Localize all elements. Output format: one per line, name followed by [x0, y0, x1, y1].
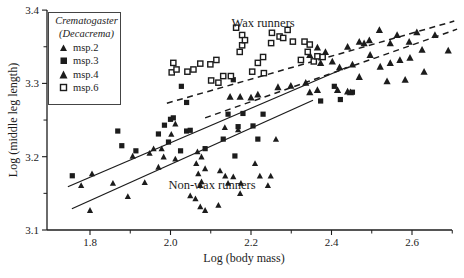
- data-point-msp.4: [366, 36, 373, 43]
- data-point-msp.2: [215, 202, 221, 208]
- data-point-msp.2: [159, 146, 165, 152]
- data-point-msp.4: [406, 38, 413, 45]
- data-point-msp.4: [226, 93, 233, 100]
- data-point-msp.6: [302, 39, 307, 44]
- triangle-filled-icon: [59, 70, 68, 79]
- annotation-wax-runners: Wax runners: [231, 16, 294, 31]
- data-point-msp.4: [420, 68, 427, 75]
- data-point-msp.2: [268, 173, 274, 179]
- data-point-msp.6: [240, 32, 245, 37]
- data-point-msp.3: [70, 173, 75, 178]
- data-point-msp.2: [265, 182, 271, 188]
- data-point-msp.2: [217, 168, 223, 174]
- data-point-msp.6: [298, 57, 303, 62]
- x-axis-tick-label: 2.0: [164, 236, 178, 248]
- data-point-msp.3: [178, 148, 183, 153]
- data-point-msp.3: [133, 148, 138, 153]
- data-point-msp.3: [166, 139, 171, 144]
- data-point-msp.6: [174, 67, 179, 72]
- data-point-msp.2: [130, 153, 136, 159]
- data-point-msp.4: [274, 83, 281, 90]
- data-point-msp.6: [290, 39, 295, 44]
- data-point-msp.2: [110, 180, 116, 186]
- data-point-msp.4: [431, 31, 438, 38]
- square-open-icon: [59, 83, 68, 92]
- data-point-msp.6: [240, 43, 245, 48]
- data-point-msp.3: [232, 153, 237, 158]
- data-point-msp.2: [172, 156, 178, 162]
- data-point-msp.3: [203, 146, 208, 151]
- data-point-msp.6: [307, 42, 312, 47]
- data-point-msp.6: [320, 54, 325, 59]
- data-point-msp.2: [195, 170, 201, 176]
- data-point-msp.6: [185, 69, 190, 74]
- data-point-msp.4: [387, 59, 394, 66]
- data-point-msp.4: [445, 47, 452, 54]
- data-point-msp.3: [332, 84, 337, 89]
- legend-item-label: msp.6: [73, 82, 98, 93]
- y-axis-tick-label: 3.1: [25, 224, 39, 236]
- legend: Crematogaster (Decacrema) msp.2 msp.3 ms…: [48, 12, 121, 105]
- data-point-msp.2: [222, 124, 228, 130]
- data-point-msp.3: [255, 137, 260, 142]
- data-point-msp.6: [311, 59, 316, 64]
- data-point-msp.4: [306, 88, 313, 95]
- data-point-msp.3: [119, 143, 124, 148]
- data-point-msp.4: [314, 44, 321, 51]
- data-point-msp.4: [376, 26, 383, 33]
- data-point-msp.6: [255, 60, 260, 65]
- data-point-msp.4: [387, 39, 394, 46]
- data-point-msp.3: [221, 137, 226, 142]
- data-point-msp.2: [202, 207, 208, 213]
- data-point-msp.4: [356, 73, 363, 80]
- legend-item-label: msp.2: [73, 42, 98, 53]
- data-point-msp.2: [187, 192, 193, 198]
- data-point-msp.4: [247, 94, 254, 101]
- legend-item-msp2: msp.2: [55, 41, 118, 54]
- data-point-msp.2: [257, 173, 263, 179]
- data-point-msp.3: [179, 84, 184, 89]
- data-point-msp.6: [209, 78, 214, 83]
- data-point-msp.3: [225, 112, 230, 117]
- data-point-msp.2: [192, 195, 198, 201]
- legend-item-label: msp.3: [73, 55, 98, 66]
- y-axis-tick-label: 3.2: [25, 151, 39, 163]
- data-point-msp.4: [314, 86, 321, 93]
- data-point-msp.3: [156, 131, 161, 136]
- data-point-msp.4: [367, 51, 374, 58]
- data-point-msp.3: [184, 100, 189, 105]
- data-point-msp.4: [418, 46, 425, 53]
- data-point-msp.6: [269, 40, 274, 45]
- data-point-msp.2: [172, 121, 178, 127]
- data-point-msp.2: [198, 154, 204, 160]
- data-point-msp.4: [396, 56, 403, 63]
- annotation-non-wax-runners: Non-wax runners: [168, 178, 255, 193]
- data-point-msp.6: [216, 80, 221, 85]
- data-point-msp.3: [250, 123, 255, 128]
- data-point-msp.4: [349, 61, 356, 68]
- data-point-msp.2: [161, 154, 167, 160]
- legend-item-msp4: msp.4: [55, 68, 118, 81]
- data-point-msp.2: [273, 136, 279, 142]
- y-axis-tick-label: 3.4: [25, 4, 39, 16]
- data-point-msp.6: [242, 38, 247, 43]
- data-point-msp.3: [236, 124, 241, 129]
- legend-item-label: msp.4: [73, 69, 98, 80]
- data-point-msp.4: [336, 64, 343, 71]
- data-point-msp.2: [252, 160, 258, 166]
- data-point-msp.4: [254, 91, 261, 98]
- data-point-msp.3: [240, 111, 245, 116]
- data-point-msp.3: [115, 128, 120, 133]
- data-point-msp.2: [193, 160, 199, 166]
- data-point-msp.2: [125, 193, 131, 199]
- data-point-msp.6: [171, 60, 176, 65]
- scatter-plot-figure: 1.82.02.22.42.63.13.23.33.4 Crematogaste…: [0, 0, 464, 278]
- data-point-msp.6: [214, 57, 219, 62]
- data-point-msp.2: [142, 179, 148, 185]
- data-point-msp.6: [208, 62, 213, 67]
- data-point-msp.2: [168, 131, 174, 137]
- data-point-msp.2: [87, 207, 93, 213]
- data-point-msp.4: [356, 38, 363, 45]
- data-point-msp.4: [377, 63, 384, 70]
- data-point-msp.3: [171, 115, 176, 120]
